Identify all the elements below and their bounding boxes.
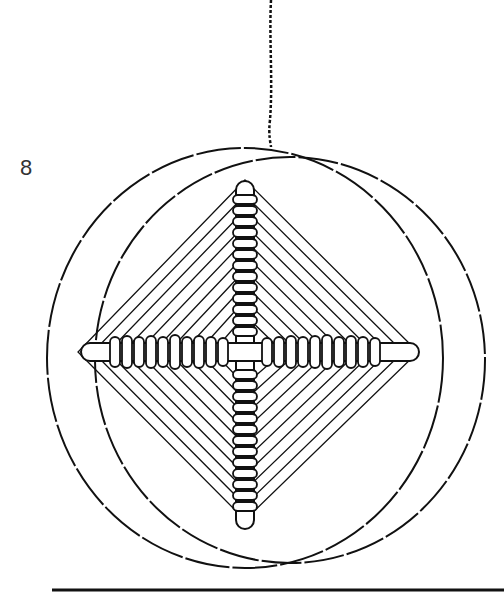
hanging-cord [269,0,271,147]
yarn-cross-disc-illustration [0,0,504,605]
